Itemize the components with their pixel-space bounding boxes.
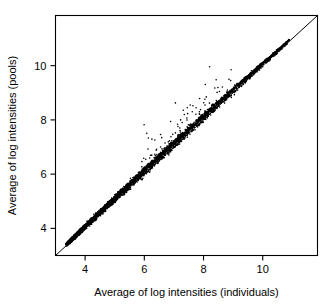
y-tick-label: 10 [34,60,46,72]
x-tick-label: 10 [257,263,269,275]
x-tick-label: 8 [200,263,206,275]
y-axis-title: Average of log intensities (pools) [6,56,18,215]
x-tick-label: 6 [141,263,147,275]
y-tick-label: 6 [40,168,46,180]
y-tick-label: 4 [40,222,46,234]
x-tick-label: 4 [82,263,88,275]
scatter-plot-figure: 46810 46810 Average of log intensities (… [0,0,333,307]
x-axis-title: Average of log intensities (individuals) [94,286,278,298]
y-tick-label: 8 [40,114,46,126]
plot-canvas: 46810 46810 Average of log intensities (… [0,0,333,307]
